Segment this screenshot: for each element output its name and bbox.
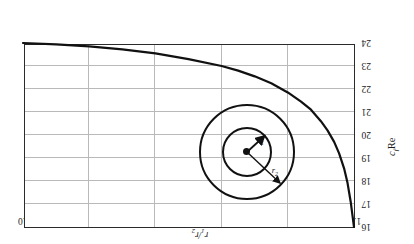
y-tick-label-22: 22 — [362, 84, 372, 94]
figure-rotated-container: r1/r2 0.0 0.2 0.4 0.6 0.8 1.0 16 17 18 1… — [0, 0, 414, 244]
y-tick-label-16: 16 — [362, 222, 372, 232]
x-axis-label-sub1: 1 — [201, 228, 204, 235]
x-axis-label-r1: r — [205, 230, 209, 240]
x-axis-label-sub2: 2 — [192, 228, 195, 235]
y-tick-label-18: 18 — [362, 176, 372, 186]
y-tick-label-23: 23 — [362, 61, 372, 71]
inner-radius-label-sub: 1 — [261, 140, 264, 146]
y-tick-label-21: 21 — [362, 107, 372, 117]
x-axis-label: r1/r2 — [192, 228, 209, 240]
y-tick-label-20: 20 — [362, 130, 372, 140]
y-axis-label-f: f — [392, 149, 400, 151]
plot-area: r2 r1 — [24, 44, 355, 228]
outer-radius-label-sub: 2 — [275, 171, 278, 177]
inset-diagram: r2 r1 — [197, 102, 297, 202]
outer-radius-label: r2 — [272, 165, 278, 177]
x-axis-label-slash: /r — [195, 230, 201, 240]
y-tick-label-17: 17 — [362, 199, 372, 209]
y-axis-label-c: c — [386, 151, 397, 156]
y-tick-label-24: 24 — [362, 38, 372, 48]
y-axis-label: cfRe — [386, 138, 400, 156]
inner-radius-label: r1 — [258, 134, 264, 146]
y-tick-label-19: 19 — [362, 153, 372, 163]
y-axis-label-re: Re — [386, 138, 397, 150]
radius-arrows — [197, 102, 297, 202]
data-curve — [23, 43, 354, 227]
